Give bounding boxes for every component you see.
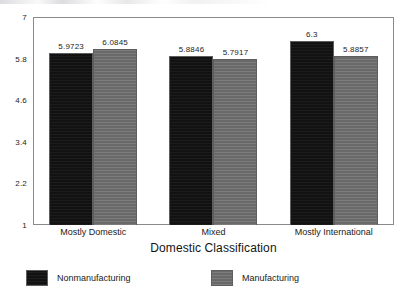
bar-group: 6.35.8857 (274, 17, 394, 225)
bars-layer: 5.97236.08455.88465.79176.35.8857 (33, 17, 394, 225)
bar-group: 5.88465.7917 (153, 17, 273, 225)
bar[interactable]: 6.3 (290, 41, 334, 225)
y-axis-tick-label: 1 (22, 221, 27, 230)
y-axis-tick-label: 3.4 (15, 137, 27, 146)
y-axis-tick-label: 5.8 (15, 54, 27, 63)
bar[interactable]: 5.9723 (49, 53, 93, 225)
legend-label: Nonmanufacturing (57, 273, 131, 283)
chart-legend: NonmanufacturingManufacturing (26, 270, 386, 290)
y-axis-tick-label: 4.6 (15, 96, 27, 105)
y-axis-tick-label: 7 (22, 13, 27, 22)
bar-value-label: 5.9723 (58, 42, 84, 51)
x-axis-title: Domestic Classification (33, 241, 394, 255)
bar-value-label: 5.8846 (179, 45, 205, 54)
bar-value-label: 5.7917 (223, 48, 249, 57)
y-axis-tick-label: 2.2 (15, 179, 27, 188)
legend-item[interactable]: Manufacturing (211, 270, 299, 286)
bar-group: 5.97236.0845 (33, 17, 153, 225)
bar[interactable]: 5.8857 (334, 56, 378, 225)
grouped-bar-chart: 75.84.63.42.21 5.97236.08455.88465.79176… (0, 0, 409, 299)
bar-value-label: 6.3 (306, 30, 318, 39)
bar[interactable]: 5.7917 (213, 59, 257, 225)
x-axis-category-labels: Mostly DomesticMixedMostly International (33, 227, 394, 241)
legend-color-swatch (211, 270, 233, 286)
bar-value-label: 5.8857 (343, 45, 369, 54)
y-axis: 75.84.63.42.21 (0, 17, 31, 225)
bar[interactable]: 6.0845 (93, 49, 137, 225)
legend-label: Manufacturing (242, 273, 299, 283)
bar[interactable]: 5.8846 (169, 56, 213, 225)
x-axis-category-label: Mixed (201, 227, 225, 237)
x-axis-category-label: Mostly Domestic (60, 227, 126, 237)
legend-item[interactable]: Nonmanufacturing (26, 270, 131, 286)
bar-value-label: 6.0845 (102, 38, 128, 47)
x-axis-category-label: Mostly International (295, 227, 373, 237)
legend-color-swatch (26, 270, 48, 286)
